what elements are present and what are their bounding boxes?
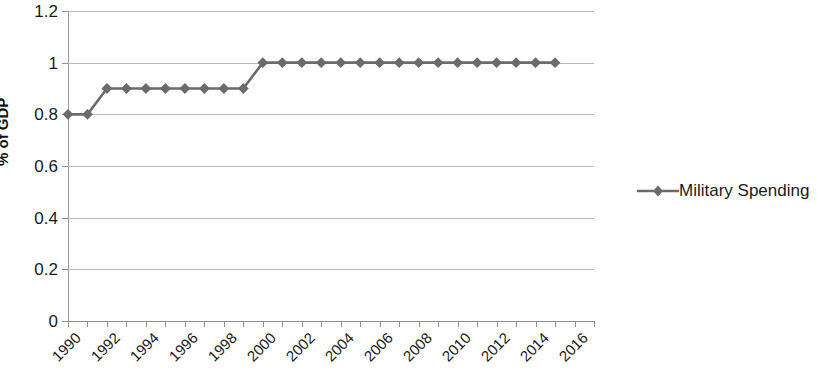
x-axis-tick (107, 321, 108, 327)
chart-container: % of GDP 00.20.40.60.811.2 1990199219941… (0, 0, 826, 381)
series-military-spending (68, 11, 594, 321)
x-axis-tick (321, 321, 322, 327)
data-point-marker (355, 57, 366, 68)
x-axis-tick (204, 321, 205, 327)
x-axis-tick (282, 321, 283, 327)
x-axis-tick-label: 2010 (429, 329, 474, 374)
y-axis-tick-label: 0 (49, 313, 58, 330)
x-axis-tick-label: 2012 (468, 329, 513, 374)
x-axis-tick (126, 321, 127, 327)
x-axis-tick (438, 321, 439, 327)
x-axis-tick (263, 321, 264, 327)
x-axis-tick (516, 321, 517, 327)
y-axis-tick-label: 1 (49, 54, 58, 71)
x-axis-tick (87, 321, 88, 327)
y-axis-tick-label: 0.2 (34, 261, 58, 278)
x-axis-tick (594, 321, 595, 327)
y-axis-tick-label: 0.4 (34, 209, 58, 226)
x-axis-tick-label: 2016 (546, 329, 591, 374)
data-point-marker (433, 57, 444, 68)
x-axis-tick (360, 321, 361, 327)
x-axis-tick (497, 321, 498, 327)
data-point-marker (63, 109, 74, 120)
x-axis-tick-label: 2002 (273, 329, 318, 374)
x-axis-tick-label: 2000 (234, 329, 279, 374)
data-point-marker (452, 57, 463, 68)
x-axis-tick (341, 321, 342, 327)
x-axis-tick (243, 321, 244, 327)
data-point-marker (199, 83, 210, 94)
x-axis-tick-label: 1998 (195, 329, 240, 374)
data-point-marker (296, 57, 307, 68)
data-point-marker (511, 57, 522, 68)
legend-marker-icon (637, 184, 679, 198)
plot-area (68, 11, 594, 321)
data-point-marker (218, 83, 229, 94)
x-axis-tick (68, 321, 69, 327)
legend-label-military-spending: Military Spending (679, 182, 809, 199)
data-point-marker (491, 57, 502, 68)
x-axis-tick-label: 1994 (117, 329, 162, 374)
x-axis-tick (399, 321, 400, 327)
x-axis-tick-label: 2014 (507, 329, 552, 374)
data-point-marker (179, 83, 190, 94)
x-axis-tick (185, 321, 186, 327)
data-point-marker (277, 57, 288, 68)
x-axis-tick (146, 321, 147, 327)
y-axis-tick-label: 1.2 (34, 3, 58, 20)
x-axis-tick (536, 321, 537, 327)
data-point-marker (530, 57, 541, 68)
y-axis-tick-label: 0.8 (34, 106, 58, 123)
x-axis-tick (419, 321, 420, 327)
data-point-marker (335, 57, 346, 68)
x-axis-tick-label: 2004 (312, 329, 357, 374)
x-axis-tick (165, 321, 166, 327)
x-axis-tick (575, 321, 576, 327)
x-axis-tick-label: 1992 (78, 329, 123, 374)
x-axis-tick-label: 1996 (156, 329, 201, 374)
data-point-marker (141, 83, 152, 94)
data-point-marker (160, 83, 171, 94)
data-point-marker (374, 57, 385, 68)
y-axis-title: % of GDP (0, 98, 11, 166)
data-point-marker (316, 57, 327, 68)
data-point-marker (413, 57, 424, 68)
x-axis-tick (555, 321, 556, 327)
chart-legend: Military Spending (637, 182, 809, 199)
x-axis-tick (458, 321, 459, 327)
data-point-marker (472, 57, 483, 68)
x-axis-tick (302, 321, 303, 327)
x-axis-tick-label: 2008 (390, 329, 435, 374)
data-point-marker (550, 57, 561, 68)
data-point-marker (121, 83, 132, 94)
x-axis-tick (224, 321, 225, 327)
y-axis-tick-label: 0.6 (34, 158, 58, 175)
x-axis-tick-label: 1990 (39, 329, 84, 374)
data-point-marker (394, 57, 405, 68)
x-axis-tick-label: 2006 (351, 329, 396, 374)
x-axis-tick (477, 321, 478, 327)
x-axis-tick (380, 321, 381, 327)
